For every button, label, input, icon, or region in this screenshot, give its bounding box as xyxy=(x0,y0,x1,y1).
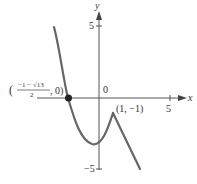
intercept-numerator: −1 − √13 xyxy=(18,82,44,89)
intercept-denominator: 2 xyxy=(30,92,34,99)
x-axis-arrow-icon xyxy=(178,95,187,101)
y-axis-label: y xyxy=(95,1,99,11)
origin-label: 0 xyxy=(103,85,108,95)
intercept-open-paren: ( xyxy=(9,84,13,96)
intercept-close: , 0) xyxy=(50,86,63,96)
x-tick-label-5: 5 xyxy=(166,104,171,114)
y-tick-label-neg5: −5 xyxy=(84,164,95,174)
curve-line xyxy=(113,113,140,169)
x-axis-label: x xyxy=(188,93,192,103)
x-intercept-marker xyxy=(65,95,72,102)
y-axis-arrow-icon xyxy=(96,11,102,20)
y-tick-label-5: 5 xyxy=(89,21,94,31)
corner-point-label: (1, −1) xyxy=(116,104,143,114)
graph-figure: y x 5 −5 5 0 (1, −1) ( −1 − √13 2 , 0) xyxy=(0,0,197,184)
